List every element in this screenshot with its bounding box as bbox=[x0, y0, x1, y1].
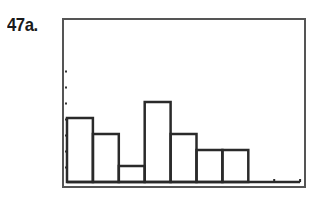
histogram-bar bbox=[67, 118, 93, 182]
y-tick-dot bbox=[65, 87, 67, 89]
histogram-bar bbox=[171, 134, 197, 182]
histogram-chart bbox=[0, 0, 312, 200]
histogram-bar bbox=[145, 102, 171, 182]
y-tick-dot bbox=[65, 103, 67, 105]
y-tick-dot bbox=[65, 71, 67, 73]
histogram-bar bbox=[119, 166, 145, 182]
histogram-bar bbox=[93, 134, 119, 182]
histogram-bar bbox=[222, 150, 248, 182]
histogram-bar bbox=[197, 150, 223, 182]
